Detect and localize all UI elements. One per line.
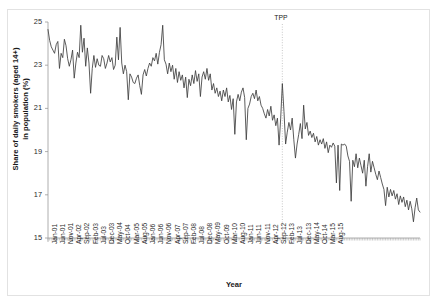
x-tick-label: Feb-03 — [92, 223, 99, 244]
x-tick-label: Mar-10 — [231, 223, 238, 244]
x-tick-label: Feb-13 — [288, 223, 295, 244]
x-tick-label: Jul-03 — [100, 226, 107, 244]
x-tick-label: Nov-11 — [264, 223, 271, 244]
data-series-group — [48, 25, 420, 222]
x-tick-label: Aug-05 — [141, 223, 148, 244]
y-tick-marks — [45, 22, 48, 238]
y-tick-label: 25 — [20, 17, 42, 26]
x-tick-label: May-09 — [214, 222, 221, 244]
x-tick-label: Feb-08 — [190, 223, 197, 244]
x-tick-label: Apr-02 — [75, 224, 82, 244]
x-tick-label: Mar-05 — [133, 223, 140, 244]
x-tick-label: Sep-02 — [83, 223, 90, 244]
x-tick-label: Oct-09 — [223, 224, 230, 244]
tpp-annotation-label: TPP — [274, 14, 287, 21]
x-tick-label: Dec-13 — [305, 223, 312, 244]
x-tick-label: Jan-06 — [149, 224, 156, 244]
x-tick-label: Nov-01 — [67, 223, 74, 244]
x-tick-label: Jun-06 — [157, 224, 164, 244]
x-tick-label: Sep-07 — [182, 223, 189, 244]
x-tick-label: Oct-04 — [124, 224, 131, 244]
x-tick-label: May-04 — [116, 222, 123, 244]
x-tick-label: Dec-08 — [206, 223, 213, 244]
x-tick-label: Jul-08 — [198, 226, 205, 244]
x-tick-label: Dec-03 — [108, 223, 115, 244]
x-tick-label: May-14 — [313, 222, 320, 244]
x-tick-label: Apr-12 — [272, 224, 279, 244]
x-tick-label: Mar-15 — [329, 223, 336, 244]
x-tick-label: Sep-12 — [280, 223, 287, 244]
y-tick-label: 19 — [20, 147, 42, 156]
x-tick-label: Jan-11 — [247, 224, 254, 244]
x-tick-label: Oct-14 — [321, 224, 328, 244]
y-tick-label: 17 — [20, 190, 42, 199]
x-tick-label: Aug-10 — [239, 223, 246, 244]
x-axis-title: Year — [48, 280, 420, 289]
y-tick-label: 23 — [20, 60, 42, 69]
x-tick-label: Jan-01 — [51, 224, 58, 244]
x-tick-label: Jul-13 — [296, 226, 303, 244]
x-tick-label: Jun-11 — [255, 224, 262, 244]
y-tick-label: 21 — [20, 103, 42, 112]
x-tick-label: Apr-07 — [174, 224, 181, 244]
x-tick-label: Aug-15 — [337, 223, 344, 244]
axes-group — [48, 22, 420, 238]
y-tick-label: 15 — [20, 233, 42, 242]
plot-area — [0, 0, 437, 304]
daily-smokers-line — [48, 25, 420, 222]
x-tick-label: Nov-06 — [165, 223, 172, 244]
x-tick-label: Jun-01 — [59, 224, 66, 244]
smokers-time-series-chart: Share of daily smokers (aged 14+) in pop… — [0, 0, 437, 304]
